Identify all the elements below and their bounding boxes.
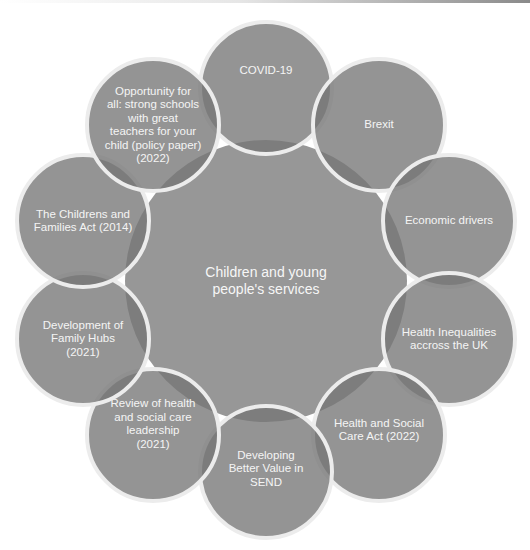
node-label: Development of Family Hubs (2021): [29, 319, 138, 360]
center-label: Children and young people's services: [150, 264, 382, 298]
node-label: Health and Social Care Act (2022): [320, 417, 438, 444]
node-label: Review of health and social care leaders…: [96, 397, 209, 451]
node-label: Developing Better Value in SEND: [215, 449, 318, 490]
node-label: COVID-19: [225, 64, 306, 78]
radial-cycle-diagram: COVID-19 Brexit Economic drivers Health …: [0, 0, 530, 550]
node-label: Economic drivers: [391, 214, 507, 228]
node-economic-drivers: Economic drivers: [381, 153, 517, 289]
node-family-hubs: Development of Family Hubs (2021): [15, 271, 151, 407]
node-label: Opportunity for all: strong schools with…: [97, 85, 210, 166]
node-label: Brexit: [350, 118, 407, 132]
node-label: Health Inequalities accross the UK: [388, 326, 511, 353]
node-opportunity-for-all: Opportunity for all: strong schools with…: [85, 57, 221, 193]
node-label: The Childrens and Families Act (2014): [20, 208, 146, 235]
